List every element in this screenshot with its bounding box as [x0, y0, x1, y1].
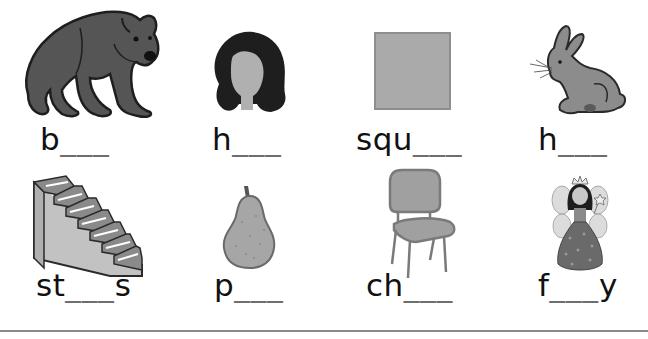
missing-letters-blank[interactable]: ___ — [234, 267, 284, 303]
hare-picture — [520, 22, 630, 120]
word-suffix: s — [115, 267, 132, 303]
missing-letters-blank[interactable]: ___ — [65, 267, 115, 303]
stairs-picture — [30, 172, 148, 278]
word-pear: p___ — [214, 270, 284, 301]
word-hair: h___ — [212, 124, 282, 155]
word-chair: ch___ — [366, 270, 453, 301]
chair-picture — [384, 168, 460, 280]
word-bear: b___ — [40, 124, 110, 155]
missing-letters-blank[interactable]: ___ — [549, 267, 599, 303]
missing-letters-blank[interactable]: ___ — [558, 121, 608, 157]
word-suffix: y — [599, 267, 618, 303]
word-stairs: st___s — [36, 270, 131, 301]
word-prefix: b — [40, 121, 60, 157]
word-square: squ___ — [356, 124, 462, 155]
square-picture — [374, 32, 451, 110]
missing-letters-blank[interactable]: ___ — [413, 121, 463, 157]
word-hare: h___ — [538, 124, 608, 155]
hair-picture — [209, 30, 289, 114]
missing-letters-blank[interactable]: ___ — [404, 267, 454, 303]
word-prefix: f — [538, 267, 549, 303]
word-prefix: st — [36, 267, 65, 303]
pear-picture — [222, 186, 278, 270]
word-prefix: p — [214, 267, 234, 303]
missing-letters-blank[interactable]: ___ — [60, 121, 110, 157]
word-prefix: h — [538, 121, 558, 157]
word-prefix: h — [212, 121, 232, 157]
word-prefix: ch — [366, 267, 404, 303]
word-fairy: f___y — [538, 270, 618, 301]
bear-picture — [18, 4, 164, 122]
missing-letters-blank[interactable]: ___ — [232, 121, 282, 157]
word-prefix: squ — [356, 121, 413, 157]
fairy-picture — [550, 176, 610, 274]
bottom-divider — [0, 330, 648, 332]
